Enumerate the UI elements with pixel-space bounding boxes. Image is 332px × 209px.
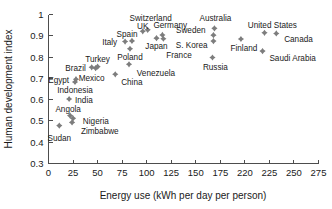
data-point-marker bbox=[126, 61, 132, 67]
data-point-marker bbox=[112, 71, 118, 77]
scatter-plot: 02550751001251501752202252502750.30.40.5… bbox=[0, 0, 332, 209]
data-point-marker bbox=[160, 36, 166, 42]
data-point-marker bbox=[211, 25, 217, 31]
data-point-label: Canada bbox=[284, 35, 313, 44]
data-point-label: Italy bbox=[102, 38, 118, 47]
y-tick-label: 0.5 bbox=[30, 115, 43, 126]
data-point-label: Indonesia bbox=[57, 86, 93, 95]
data-point-marker bbox=[89, 64, 95, 70]
data-point-label: Japan bbox=[145, 42, 168, 51]
x-tick-label: 125 bbox=[163, 167, 179, 178]
data-point-label: Egypt bbox=[48, 76, 70, 85]
data-point-label: Sudan bbox=[47, 134, 71, 143]
x-tick-label: 0 bbox=[46, 167, 51, 178]
x-tick-label: 100 bbox=[139, 167, 155, 178]
y-tick-label: 0.6 bbox=[30, 94, 43, 105]
data-point-label: Russia bbox=[203, 63, 228, 72]
data-point-label: India bbox=[75, 96, 93, 105]
y-tick-label: 1 bbox=[38, 9, 43, 20]
data-point-label: Nigeria bbox=[83, 117, 109, 126]
x-tick-label: 250 bbox=[286, 167, 302, 178]
x-tick-label: 25 bbox=[68, 167, 79, 178]
data-point-marker bbox=[56, 123, 62, 129]
x-tick-label: 275 bbox=[311, 167, 327, 178]
y-axis-title: Human development index bbox=[3, 30, 14, 149]
data-point-label: United States bbox=[248, 21, 297, 30]
data-point-label: France bbox=[166, 51, 192, 60]
y-tick-label: 0.3 bbox=[30, 158, 43, 169]
x-tick-label: 220 bbox=[237, 167, 253, 178]
x-tick-label: 175 bbox=[212, 167, 228, 178]
data-point-marker bbox=[69, 119, 75, 125]
x-tick-label: 150 bbox=[188, 167, 204, 178]
data-point-label: UK bbox=[137, 22, 149, 31]
data-point-marker bbox=[209, 54, 215, 60]
data-point-label: Turkey bbox=[85, 55, 111, 64]
y-tick-label: 0.8 bbox=[30, 52, 43, 63]
data-point-label: Finland bbox=[230, 44, 257, 53]
data-point-label: Poland bbox=[117, 53, 143, 62]
y-tick-label: 0.9 bbox=[30, 30, 43, 41]
x-tick-label: 225 bbox=[261, 167, 277, 178]
data-point-marker bbox=[210, 32, 216, 38]
chart-figure: 02550751001251501752202252502750.30.40.5… bbox=[0, 0, 332, 209]
data-point-marker bbox=[122, 38, 128, 44]
data-point-marker bbox=[153, 35, 159, 41]
data-point-label: S. Korea bbox=[176, 41, 208, 50]
data-point-label: China bbox=[121, 78, 143, 87]
data-point-label: Spain bbox=[117, 30, 138, 39]
data-point-marker bbox=[66, 96, 72, 102]
x-axis-title: Energy use (kWh per day per person) bbox=[100, 190, 267, 201]
data-point-marker bbox=[210, 38, 216, 44]
data-point-label: Saudi Arabia bbox=[269, 54, 316, 63]
data-point-label: Sweden bbox=[176, 26, 206, 35]
data-point-marker bbox=[261, 30, 267, 36]
data-point-label: Brazil bbox=[65, 64, 86, 73]
data-point-marker bbox=[127, 46, 133, 52]
x-tick-label: 50 bbox=[92, 167, 103, 178]
data-point-label: Zimbabwe bbox=[81, 127, 119, 136]
data-point-marker bbox=[273, 30, 279, 36]
x-tick-label: 75 bbox=[117, 167, 128, 178]
y-tick-label: 0.7 bbox=[30, 73, 43, 84]
y-tick-label: 0.4 bbox=[30, 137, 43, 148]
data-point-label: Angola bbox=[55, 105, 81, 114]
data-point-label: Venezuela bbox=[137, 69, 176, 78]
data-point-marker bbox=[238, 36, 244, 42]
data-point-marker bbox=[259, 48, 265, 54]
data-point-label: Mexico bbox=[79, 74, 105, 83]
data-point-label: Australia bbox=[199, 14, 231, 23]
